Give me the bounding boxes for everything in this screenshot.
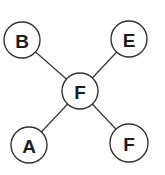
node-label: F (123, 134, 135, 155)
node-label: F (74, 82, 86, 103)
node-label: B (15, 31, 29, 52)
node-top-right: E (111, 21, 147, 57)
node-bottom-left: A (11, 127, 47, 163)
node-label: E (123, 30, 136, 51)
node-center: F (62, 73, 98, 109)
node-label: A (22, 136, 36, 157)
node-bottom-right: F (110, 124, 148, 162)
node-top-left: B (4, 22, 40, 58)
star-diagram: B E F A F (0, 0, 165, 175)
